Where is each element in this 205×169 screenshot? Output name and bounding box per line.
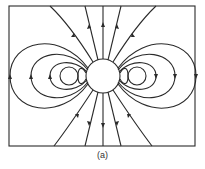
left-sphere — [60, 67, 78, 85]
right-sphere — [128, 67, 146, 85]
figure-caption: (a) — [0, 150, 205, 160]
central-sphere — [86, 59, 120, 93]
field-line-diagram — [0, 0, 205, 169]
bottom-field-lines — [54, 90, 152, 146]
top-field-lines — [50, 6, 156, 62]
